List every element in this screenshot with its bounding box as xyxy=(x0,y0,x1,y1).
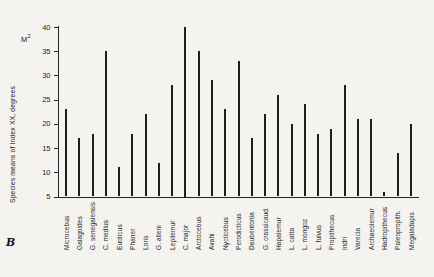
x-category-label: Hadropithecus xyxy=(381,207,388,250)
bar xyxy=(317,134,319,197)
bar xyxy=(171,85,173,196)
bar xyxy=(198,51,200,196)
bar xyxy=(238,61,240,197)
x-category-label: Microcebus xyxy=(63,216,70,250)
y-tick xyxy=(54,75,58,76)
bar xyxy=(357,119,359,196)
x-category-label: C. medius xyxy=(102,220,109,250)
y-tick xyxy=(54,124,58,125)
x-category-label: Varecia xyxy=(354,228,361,250)
y-axis xyxy=(58,26,59,197)
bar xyxy=(105,51,107,196)
y-tick xyxy=(54,172,58,173)
bar xyxy=(184,27,186,197)
y-tick xyxy=(54,51,58,52)
x-category-label: Archaeolemur xyxy=(368,208,375,250)
x-category-label: Euoticus xyxy=(116,224,123,250)
x-category-label: Megaladapis xyxy=(408,212,415,250)
y-tick-label: 5 xyxy=(33,192,51,201)
x-category-label: G. alleni xyxy=(155,225,162,250)
x-category-label: L. mongoz xyxy=(301,219,308,250)
bar xyxy=(291,124,293,197)
bar xyxy=(251,138,253,196)
y-tick-label: 20 xyxy=(33,119,51,128)
bar xyxy=(211,80,213,196)
y-tick-label: 30 xyxy=(33,71,51,80)
y-tick xyxy=(54,27,58,28)
x-category-label: Avahi xyxy=(208,233,215,250)
bar xyxy=(145,114,147,196)
figure-panel-b: B M2 Species means of Index XX, degrees … xyxy=(0,0,434,277)
x-category-label: G. senegalensis xyxy=(89,202,96,250)
y-tick xyxy=(54,148,58,149)
x-category-label: Daubentonia xyxy=(248,212,255,250)
bar xyxy=(397,153,399,197)
bar xyxy=(304,104,306,196)
x-category-label: C. major xyxy=(182,225,189,250)
y-tick xyxy=(54,197,58,198)
bar xyxy=(344,85,346,196)
x-category-label: Perodicticus xyxy=(235,213,242,250)
molar-index-superscript: 2 xyxy=(27,33,30,39)
x-category-label: L. catta xyxy=(288,228,295,250)
bar xyxy=(330,129,332,197)
molar-index-label: M2 xyxy=(21,33,31,44)
panel-letter: B xyxy=(6,236,15,249)
bar xyxy=(131,134,133,197)
bar xyxy=(118,167,120,196)
bar xyxy=(65,109,67,196)
x-category-label: Galagoides xyxy=(76,216,83,250)
x-category-label: Arctocebus xyxy=(195,216,202,250)
x-category-label: Hapalemur xyxy=(275,217,282,250)
x-category-label: Paleopropith. xyxy=(394,210,401,250)
bar xyxy=(264,114,266,196)
y-tick-label: 40 xyxy=(33,23,51,32)
y-tick-label: 25 xyxy=(33,95,51,104)
bar xyxy=(410,124,412,197)
x-category-label: Phaner xyxy=(129,228,136,250)
bar xyxy=(78,138,80,196)
bar xyxy=(158,163,160,197)
y-tick-label: 15 xyxy=(33,144,51,153)
bar xyxy=(92,134,94,197)
bar xyxy=(370,119,372,196)
x-category-label: Nycticebus xyxy=(222,217,229,250)
y-tick xyxy=(54,100,58,101)
bar xyxy=(383,192,385,197)
x-category-label: Loris xyxy=(142,235,149,250)
x-axis xyxy=(58,197,420,198)
x-category-label: Lepilemur xyxy=(169,221,176,250)
x-category-label: G. crassicaud. xyxy=(262,207,269,250)
y-tick-label: 35 xyxy=(33,47,51,56)
x-category-label: L. fulvus xyxy=(315,225,322,250)
x-category-label: Propithecus xyxy=(328,215,335,250)
bar xyxy=(224,109,226,196)
bar xyxy=(277,95,279,197)
x-category-label: Indri xyxy=(341,237,348,250)
y-axis-title: Species means of Index XX, degrees xyxy=(9,86,16,203)
y-tick-label: 10 xyxy=(33,168,51,177)
